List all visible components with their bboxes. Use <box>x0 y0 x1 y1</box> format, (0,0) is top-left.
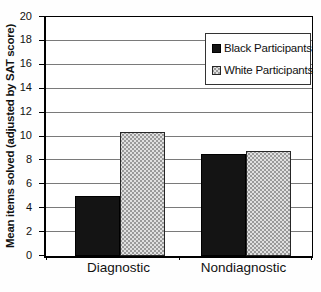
y-tick-label-16: 16 <box>20 57 32 70</box>
gridline-10 <box>46 136 312 137</box>
y-tick-label-20: 20 <box>20 10 32 23</box>
y-tick-label-14: 14 <box>20 81 32 94</box>
legend-label: Black Participants <box>224 42 312 54</box>
y-tick-label-18: 18 <box>20 33 32 46</box>
y-tick-mark-8 <box>39 159 45 160</box>
y-tick-mark-16 <box>39 64 45 65</box>
legend-entry-white-participants: White Participants <box>212 62 306 78</box>
legend-entry-black-participants: Black Participants <box>212 40 306 56</box>
legend: Black ParticipantsWhite Participants <box>205 33 311 85</box>
x-category-label-nondiagnostic: Nondiagnostic <box>174 260 314 275</box>
y-tick-mark-12 <box>39 112 45 113</box>
gridline-14 <box>46 88 312 89</box>
y-axis-tick-labels: 02468101214161820 <box>0 16 38 255</box>
y-tick-mark-4 <box>39 207 45 208</box>
y-tick-mark-14 <box>39 88 45 89</box>
y-tick-mark-0 <box>39 255 45 256</box>
legend-marker-solid-square-icon <box>212 44 221 53</box>
x-category-label-diagnostic: Diagnostic <box>48 260 188 275</box>
bar-black-participants-diagnostic <box>75 196 120 256</box>
bar-white-participants-diagnostic <box>120 132 165 256</box>
y-tick-label-6: 6 <box>26 177 32 190</box>
y-tick-mark-2 <box>39 231 45 232</box>
y-tick-label-12: 12 <box>20 105 32 118</box>
legend-label: White Participants <box>224 64 313 76</box>
x-axis-labels: DiagnosticNondiagnostic <box>44 260 310 280</box>
y-tick-mark-20 <box>39 16 45 17</box>
bar-chart: Mean items solved (adjusted by SAT score… <box>0 0 321 292</box>
y-tick-mark-10 <box>39 136 45 137</box>
y-tick-label-0: 0 <box>26 249 32 262</box>
y-tick-mark-6 <box>39 183 45 184</box>
y-tick-label-4: 4 <box>26 201 32 214</box>
gridline-12 <box>46 112 312 113</box>
bar-black-participants-nondiagnostic <box>201 154 246 256</box>
y-tick-label-8: 8 <box>26 153 32 166</box>
legend-marker-dotted-square-icon <box>212 66 221 75</box>
plot-area: Black ParticipantsWhite Participants <box>44 16 313 258</box>
y-tick-label-2: 2 <box>26 225 32 238</box>
y-tick-label-10: 10 <box>20 129 32 142</box>
y-tick-mark-18 <box>39 40 45 41</box>
bar-white-participants-nondiagnostic <box>246 151 291 256</box>
